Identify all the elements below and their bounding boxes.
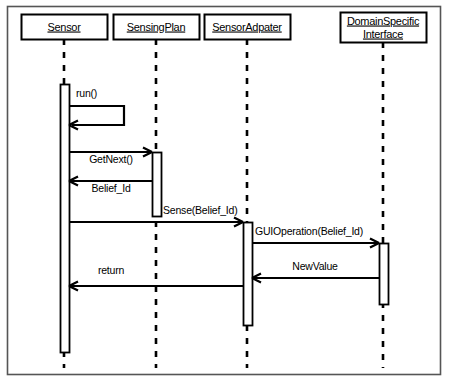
participant-sensoradpater[interactable]: SensorAdpater — [205, 15, 291, 40]
message-label-msg-newvalue: NewValue — [292, 260, 338, 272]
sequence-diagram-canvas: SensorSensingPlanSensorAdpaterDomainSpec… — [0, 0, 449, 382]
participant-label-domainspecificinterface: DomainSpecific — [347, 15, 420, 27]
participant-sensingplan[interactable]: SensingPlan — [114, 15, 200, 40]
message-label-msg-sense: Sense(Belief_Id) — [163, 204, 237, 216]
participant-label-sensoradpater: SensorAdpater — [212, 21, 282, 33]
participant-label-domainspecificinterface: Interface — [363, 28, 403, 40]
participant-label-sensingplan: SensingPlan — [127, 21, 186, 33]
uml-sequence-diagram: SensorSensingPlanSensorAdpaterDomainSpec… — [0, 0, 449, 382]
activation-bar-sensoradpater — [244, 223, 253, 326]
activation-bar-sensor — [61, 85, 70, 353]
message-label-msg-beliefid: Belief_Id — [91, 182, 130, 194]
activation-bar-sensingplan — [153, 153, 162, 217]
participant-boxes-group: SensorSensingPlanSensorAdpaterDomainSpec… — [22, 13, 427, 43]
participant-label-sensor: Sensor — [47, 21, 81, 33]
message-label-msg-getnext: GetNext() — [89, 153, 133, 165]
message-label-msg-guioperation: GUIOperation(Belief_Id) — [255, 225, 363, 237]
message-label-msg-return: return — [98, 264, 125, 276]
diagram-frame — [8, 7, 441, 375]
activation-bar-domainspecificinterface — [380, 244, 389, 305]
participant-sensor[interactable]: Sensor — [22, 15, 108, 40]
participant-domainspecificinterface[interactable]: DomainSpecificInterface — [341, 13, 427, 43]
message-label-msg-run: run() — [76, 87, 97, 99]
